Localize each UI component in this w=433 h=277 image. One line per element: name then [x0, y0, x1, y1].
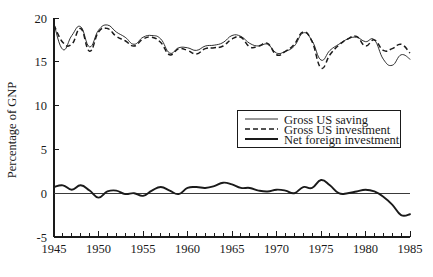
y-tick-label-5: 5 — [41, 143, 47, 157]
x-tick-label-1985: 1985 — [398, 242, 423, 256]
chart-legend: Gross US saving Gross US investment Net … — [238, 111, 401, 148]
x-tick-label-1950: 1950 — [86, 242, 111, 256]
x-tick-label-1980: 1980 — [353, 242, 378, 256]
legend-label-net-foreign-investment: Net foreign investment — [284, 133, 400, 147]
chart-container: 20151050-5 19451950195519601965197019751… — [0, 0, 433, 277]
x-tick-label-1975: 1975 — [309, 242, 334, 256]
series-line-gross-us-saving — [54, 24, 410, 65]
x-tick-label-1965: 1965 — [220, 242, 245, 256]
x-tick-label-1955: 1955 — [131, 242, 156, 256]
x-tick-label-1970: 1970 — [264, 242, 289, 256]
y-axis-title: Percentage of GNP — [5, 82, 19, 179]
x-tick-label-1960: 1960 — [175, 242, 200, 256]
y-tick-label-20: 20 — [35, 12, 48, 26]
y-axis-ticks — [54, 18, 59, 237]
y-tick-label-10: 10 — [35, 99, 48, 113]
y-tick-label-0: 0 — [41, 187, 47, 201]
x-axis-group: 194519501955196019651970197519801985 — [42, 231, 423, 256]
series-line-net-foreign-investment — [54, 180, 410, 216]
y-tick-label-15: 15 — [35, 55, 48, 69]
gnp-saving-investment-line-chart: 20151050-5 19451950195519601965197019751… — [0, 0, 433, 277]
x-tick-label-1945: 1945 — [42, 242, 67, 256]
x-axis-tick-labels: 194519501955196019651970197519801985 — [42, 242, 423, 256]
y-axis-tick-labels: 20151050-5 — [35, 12, 48, 245]
y-axis-group: 20151050-5 — [35, 12, 60, 245]
series-line-gross-us-investment — [54, 25, 410, 68]
